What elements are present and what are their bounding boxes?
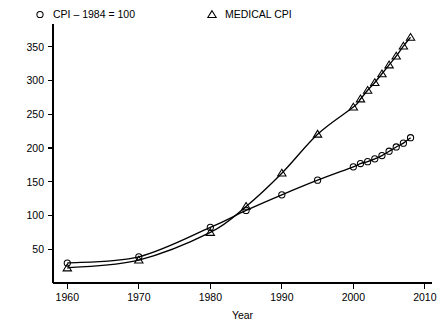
- y-tick-label: 50: [32, 243, 44, 255]
- cpi-medical-cpi-line-chart: CPI – 1984 = 100MEDICAL CPI 501001502002…: [0, 0, 443, 331]
- y-tick-label: 300: [26, 74, 44, 86]
- x-tick-label: 2010: [413, 291, 437, 303]
- x-tick-label: 1990: [270, 291, 294, 303]
- chart-legend: CPI – 1984 = 100MEDICAL CPI: [37, 8, 292, 20]
- marker-triangle: [208, 11, 216, 18]
- marker-triangle: [406, 33, 414, 40]
- y-tick-label: 100: [26, 209, 44, 221]
- x-tick-label: 1960: [56, 291, 80, 303]
- x-axis: 196019701980199020002010: [53, 283, 437, 303]
- marker-circle: [37, 11, 43, 17]
- legend-label-1: CPI – 1984 = 100: [53, 8, 135, 20]
- x-axis-title: Year: [232, 309, 254, 321]
- series-line-1: [67, 138, 410, 263]
- y-tick-label: 200: [26, 142, 44, 154]
- y-axis: 50100150200250300350: [26, 24, 53, 283]
- chart-container: CPI – 1984 = 100MEDICAL CPI 501001502002…: [0, 0, 443, 331]
- legend-label-2: MEDICAL CPI: [225, 8, 292, 20]
- y-tick-label: 250: [26, 108, 44, 120]
- data-series-group: [63, 33, 415, 270]
- y-tick-label: 150: [26, 176, 44, 188]
- series-line-2: [67, 37, 410, 268]
- y-tick-label: 350: [26, 41, 44, 53]
- x-tick-label: 2000: [342, 291, 366, 303]
- x-tick-label: 1970: [127, 291, 151, 303]
- x-tick-label: 1980: [199, 291, 223, 303]
